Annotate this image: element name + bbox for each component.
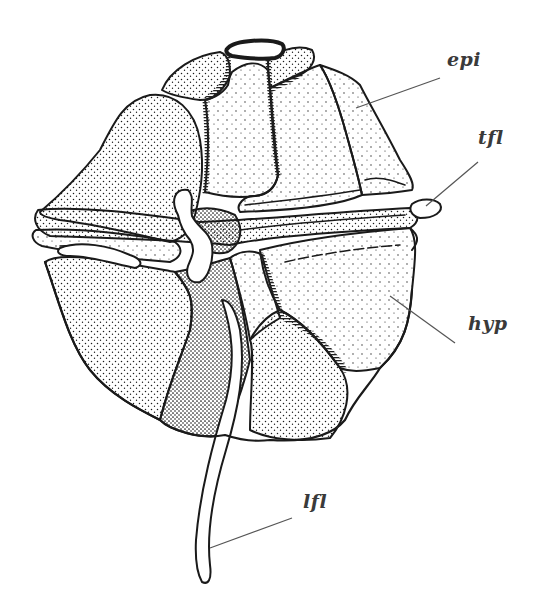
leader-lfl: [210, 518, 292, 548]
leader-epi: [356, 78, 440, 108]
label-tfl: tfl: [478, 126, 504, 148]
label-epi: epi: [447, 48, 481, 70]
leader-tfl: [426, 162, 478, 206]
dinoflagellate-diagram: epi tfl hyp lfl: [0, 0, 541, 601]
label-hyp: hyp: [468, 312, 508, 334]
label-lfl: lfl: [303, 490, 327, 512]
cell-illustration: [0, 0, 541, 601]
